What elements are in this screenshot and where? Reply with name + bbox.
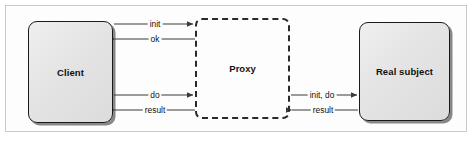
diagram-canvas: init ok do result init, do result Client… — [0, 0, 476, 144]
node-client: Client — [28, 21, 113, 123]
node-proxy-label: Proxy — [229, 63, 255, 74]
arrow-label-do: do — [148, 91, 161, 99]
arrow-label-result-right: result — [311, 106, 335, 114]
node-proxy: Proxy — [195, 18, 290, 119]
arrow-label-result-left: result — [143, 106, 167, 114]
node-real-subject: Real subject — [359, 22, 450, 121]
arrow-label-ok: ok — [149, 35, 162, 43]
arrow-label-init-do: init, do — [308, 91, 337, 99]
node-real-subject-label: Real subject — [376, 66, 433, 77]
arrow-label-init: init — [148, 20, 163, 28]
node-client-label: Client — [57, 67, 84, 78]
